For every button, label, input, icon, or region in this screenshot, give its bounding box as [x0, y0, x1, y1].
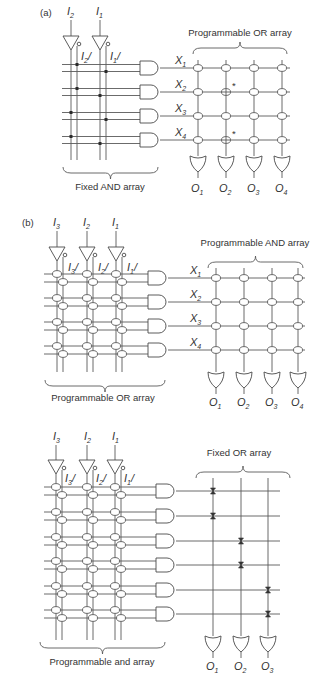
output-label: O4: [275, 182, 288, 196]
fuse: [59, 279, 68, 286]
fuse: [117, 566, 126, 573]
fuse: [118, 303, 127, 310]
panel-b-pla: (b)I3I3/I2I2/I1I1/X1X2X3X4O1O2O3O4Progra…: [22, 216, 310, 410]
fuse: [111, 583, 120, 590]
or-array-label: Fixed OR array: [207, 447, 272, 458]
fuse: [118, 279, 127, 286]
or-gate: [246, 156, 262, 172]
fixed-connection-dot: [70, 135, 73, 138]
fuse: [118, 351, 127, 358]
or-gate: [205, 636, 221, 652]
invert-bubble-icon: [62, 466, 66, 470]
panel-tag: (a): [40, 7, 52, 18]
input-buffer: [79, 460, 97, 474]
input-label: I2: [67, 5, 74, 19]
fuse: [268, 323, 277, 330]
fuse: [194, 89, 203, 96]
input-label: I2: [83, 216, 90, 230]
fuse: [83, 534, 92, 541]
fuse: [112, 271, 121, 278]
output-label: O2: [219, 182, 232, 196]
fuse-asterisk: *: [232, 80, 236, 91]
fuse: [240, 275, 249, 282]
fuse: [89, 303, 98, 310]
and-gate: [140, 85, 158, 99]
input-buffer: [92, 36, 110, 50]
output-label: O1: [209, 396, 222, 410]
fuse: [89, 615, 98, 622]
and-gate: [148, 343, 166, 357]
fuse: [240, 299, 249, 306]
output-label: O1: [206, 660, 219, 674]
fuse: [118, 327, 127, 334]
fuse: [294, 299, 303, 306]
fuse: [250, 65, 259, 72]
fuse: [58, 517, 67, 524]
fuse: [83, 343, 92, 350]
fuse: [59, 327, 68, 334]
and-gate: [140, 61, 158, 75]
product-label: X1: [174, 54, 186, 68]
or-array-label: Programmable OR array: [188, 27, 292, 38]
or-array-brace: [193, 42, 287, 54]
fuse: [58, 566, 67, 573]
fuse: [194, 113, 203, 120]
fixed-connection-dot: [70, 111, 73, 114]
product-label: X3: [174, 102, 186, 116]
pla-pal-diagram: (a)I2I2/I1I1/X1X2X3X4O1O2O3O4**Programma…: [0, 0, 328, 680]
output-label: O4: [291, 396, 304, 410]
input-complement-label: I3/: [68, 261, 79, 275]
fuse: [294, 275, 303, 282]
fuse: [89, 327, 98, 334]
fuse: [222, 65, 231, 72]
fuse: [52, 509, 61, 516]
left-array-label: Programmable OR array: [51, 392, 155, 403]
and-gate: [148, 295, 166, 309]
input-label: I1: [96, 5, 103, 19]
and-gate: [156, 607, 174, 621]
panel-tag: (b): [22, 217, 34, 228]
product-label: X4: [189, 336, 201, 350]
or-gate: [190, 156, 206, 172]
product-label: X4: [174, 126, 186, 140]
fuse: [83, 271, 92, 278]
input-label: I3: [53, 430, 60, 444]
fuse: [59, 303, 68, 310]
fuse: [250, 137, 259, 144]
fuse: [83, 295, 92, 302]
fuse: [240, 347, 249, 354]
fuse: [58, 591, 67, 598]
fixed-connection-dot: [105, 70, 108, 73]
fuse: [194, 65, 203, 72]
fuse: [112, 343, 121, 350]
input-complement-label: I1/: [110, 50, 121, 64]
fuse: [89, 566, 98, 573]
and-gate: [140, 133, 158, 147]
and-array-brace: [40, 642, 165, 654]
fuse: [117, 591, 126, 598]
and-gate: [156, 484, 174, 498]
fuse: [212, 299, 221, 306]
fuse: [111, 558, 120, 565]
invert-bubble-icon: [77, 42, 81, 46]
fuse: [53, 343, 62, 350]
and-array-label: Programmable and array: [49, 656, 154, 667]
output-label: O2: [237, 396, 250, 410]
fuse: [83, 558, 92, 565]
invert-bubble-icon: [93, 253, 97, 257]
fuse: [111, 484, 120, 491]
input-complement-label: I2/: [81, 50, 92, 64]
fuse: [83, 484, 92, 491]
and-gate: [156, 509, 174, 523]
fuse: [117, 615, 126, 622]
fuse: [52, 607, 61, 614]
or-gate: [233, 636, 249, 652]
input-buffer: [108, 247, 126, 261]
and-gate: [148, 271, 166, 285]
and-gate: [156, 558, 174, 572]
or-gate: [290, 372, 306, 388]
input-buffer: [107, 460, 125, 474]
and-gate: [140, 109, 158, 123]
input-buffer: [49, 247, 67, 261]
output-label: O2: [234, 660, 247, 674]
